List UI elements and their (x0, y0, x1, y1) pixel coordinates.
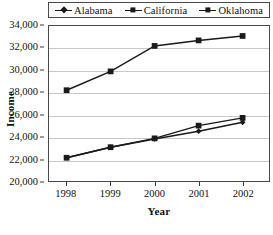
y-axis-tick-mark (40, 47, 44, 48)
x-axis-tick-mark (66, 182, 67, 186)
x-axis-tick-label: 1999 (100, 188, 121, 199)
x-axis-tick-label: 2002 (233, 188, 254, 199)
series-california (64, 115, 246, 161)
data-point-square-marker-icon (152, 43, 158, 49)
data-point-square-marker-icon (196, 123, 202, 129)
y-axis-tick-label: 22,000 (9, 155, 38, 165)
legend-item-oklahoma[interactable]: Oklahoma (199, 5, 263, 16)
square-marker-icon (131, 7, 136, 12)
plot-area (48, 25, 270, 182)
square-marker-icon (199, 5, 216, 15)
y-axis-tick-label: 34,000 (9, 20, 38, 30)
chart-legend: AlabamaCaliforniaOklahoma (48, 2, 270, 18)
y-axis-tick-mark (40, 25, 44, 26)
series-layer (49, 26, 269, 181)
y-axis-tick-label: 30,000 (9, 65, 38, 75)
square-marker-icon (205, 7, 210, 12)
y-axis-tick-mark (40, 137, 44, 138)
data-point-square-marker-icon (196, 38, 202, 44)
y-axis-tick-mark (40, 182, 44, 183)
x-axis-title: Year (48, 205, 270, 217)
data-point-diamond-marker-icon (196, 128, 202, 134)
data-point-square-marker-icon (64, 87, 70, 93)
x-axis-tick-label: 2000 (144, 188, 165, 199)
data-point-square-marker-icon (240, 33, 246, 39)
x-axis-tick-mark (155, 182, 156, 186)
x-axis-tick-mark (243, 182, 244, 186)
legend-item-label: California (144, 5, 188, 16)
data-point-square-marker-icon (108, 144, 114, 150)
legend-item-alabama[interactable]: Alabama (55, 5, 113, 16)
legend-item-label: Alabama (74, 5, 113, 16)
y-axis-tick-label: 32,000 (9, 42, 38, 52)
diamond-marker-icon (60, 6, 67, 13)
legend-item-label: Oklahoma (218, 5, 263, 16)
y-axis-tick-label: 20,000 (9, 177, 38, 187)
data-point-square-marker-icon (152, 136, 158, 142)
line-chart: AlabamaCaliforniaOklahoma 34,00032,00030… (0, 0, 273, 235)
data-point-square-marker-icon (240, 115, 246, 121)
y-axis-tick-mark (40, 159, 44, 160)
series-oklahoma (64, 33, 246, 93)
data-point-square-marker-icon (108, 69, 114, 75)
y-axis-tick-mark (40, 92, 44, 93)
x-axis-tick-mark (110, 182, 111, 186)
x-axis: 19981999200020012002 (48, 182, 270, 204)
y-axis-tick-mark (40, 114, 44, 115)
square-marker-icon (125, 5, 142, 15)
x-axis-tick-label: 2001 (188, 188, 209, 199)
legend-item-california[interactable]: California (125, 5, 188, 16)
x-axis-tick-mark (199, 182, 200, 186)
data-point-square-marker-icon (64, 155, 70, 161)
x-axis-tick-label: 1998 (55, 188, 76, 199)
y-axis-tick-mark (40, 69, 44, 70)
diamond-marker-icon (55, 5, 72, 15)
y-axis-title: Income (4, 78, 16, 140)
